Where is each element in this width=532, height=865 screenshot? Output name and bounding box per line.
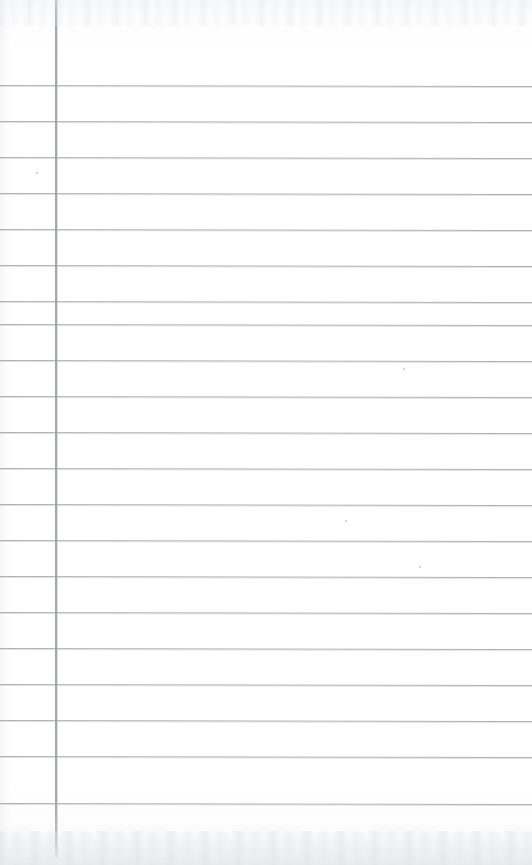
writing-area[interactable]: [57, 85, 532, 803]
scanned-notebook-page: [0, 0, 532, 865]
